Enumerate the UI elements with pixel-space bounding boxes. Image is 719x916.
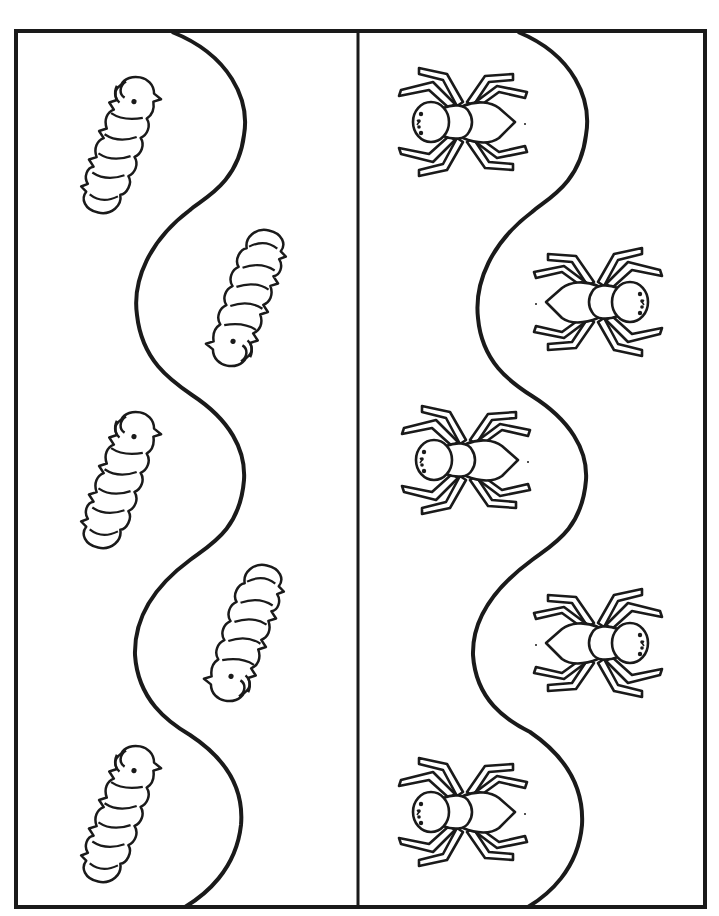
worksheet-canvas	[0, 0, 719, 916]
worksheet-page	[0, 0, 719, 916]
page-title-fragment	[0, 0, 719, 6]
